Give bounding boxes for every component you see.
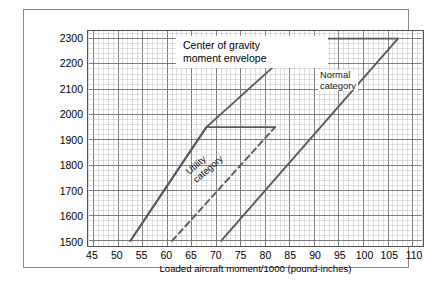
envelope-line bbox=[172, 127, 275, 241]
x-tick-label: 75 bbox=[235, 249, 247, 261]
chart-title-callout: Center of gravity moment envelope bbox=[176, 36, 328, 68]
x-tick-label: 65 bbox=[185, 249, 197, 261]
y-tick-label: 1500 bbox=[60, 236, 83, 248]
cg-moment-envelope-figure: Center of gravity moment envelope Utilit… bbox=[0, 0, 432, 287]
x-tick-label: 95 bbox=[334, 249, 346, 261]
envelope-line bbox=[130, 39, 398, 241]
y-tick-label: 2000 bbox=[60, 108, 83, 120]
x-axis-ticks: 4550556065707580859095100105110 bbox=[87, 247, 424, 263]
y-tick-label: 1600 bbox=[60, 210, 83, 222]
normal-category-label-line: category bbox=[320, 81, 356, 92]
envelope-line bbox=[130, 127, 275, 241]
y-tick-label: 1900 bbox=[60, 134, 83, 146]
x-tick-label: 110 bbox=[406, 249, 423, 261]
x-tick-label: 105 bbox=[381, 249, 399, 261]
chart-title-line1: Center of gravity bbox=[183, 39, 323, 52]
envelope-line bbox=[221, 39, 398, 241]
x-axis-title: Loaded aircraft moment/1000 (pound-inche… bbox=[87, 263, 424, 274]
figure-frame: Center of gravity moment envelope Utilit… bbox=[23, 9, 409, 268]
y-tick-label: 1800 bbox=[60, 159, 83, 171]
normal-category-label-line: Normal bbox=[320, 70, 356, 81]
x-tick-label: 50 bbox=[111, 249, 123, 261]
x-tick-label: 55 bbox=[136, 249, 148, 261]
x-tick-label: 45 bbox=[86, 249, 98, 261]
y-tick-label: 2100 bbox=[60, 83, 83, 95]
y-tick-label: 2300 bbox=[60, 32, 83, 44]
y-tick-label: 1700 bbox=[60, 185, 83, 197]
x-tick-label: 85 bbox=[284, 249, 296, 261]
plot-area: Center of gravity moment envelope Utilit… bbox=[87, 30, 424, 247]
normal-category-label: Normalcategory bbox=[318, 70, 358, 91]
x-tick-label: 80 bbox=[260, 249, 272, 261]
x-tick-label: 70 bbox=[210, 249, 222, 261]
x-tick-label: 60 bbox=[160, 249, 172, 261]
y-tick-label: 2200 bbox=[60, 57, 83, 69]
chart-title-line2: moment envelope bbox=[183, 52, 323, 65]
x-tick-label: 100 bbox=[356, 249, 374, 261]
x-tick-label: 90 bbox=[309, 249, 321, 261]
